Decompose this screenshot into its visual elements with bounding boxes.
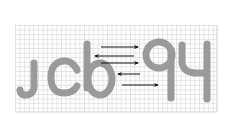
captcha-image: jcbq4 (0, 0, 229, 114)
